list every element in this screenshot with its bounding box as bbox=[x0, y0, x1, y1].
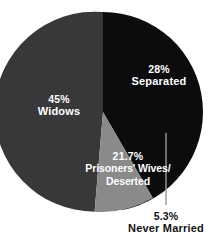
pie-chart-canvas bbox=[0, 0, 214, 238]
pie-slice-widows[interactable] bbox=[0, 12, 103, 212]
pie-chart-figure: 28% Separated 45% Widows 21.7% Prisoners… bbox=[0, 0, 214, 238]
